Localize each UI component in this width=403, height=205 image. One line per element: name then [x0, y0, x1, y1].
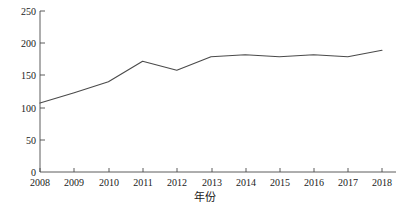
- y-tick-200: 200: [21, 38, 45, 49]
- x-tick-2016: 2016: [304, 168, 324, 188]
- y-tick-label: 200: [21, 38, 36, 49]
- y-tick-250: 250: [21, 6, 45, 17]
- y-tick-100: 100: [21, 103, 45, 114]
- y-tick-label: 150: [21, 70, 36, 81]
- x-tick-2017: 2017: [338, 168, 358, 188]
- x-tick-label: 2018: [372, 177, 392, 188]
- x-tick-2018: 2018: [372, 168, 392, 188]
- y-tick-label: 50: [26, 135, 36, 146]
- y-tick-150: 150: [21, 70, 45, 81]
- data-line-series-0: [40, 50, 382, 103]
- x-tick-2010: 2010: [99, 168, 119, 188]
- plot-axes: [40, 11, 396, 172]
- x-tick-label: 2015: [270, 177, 290, 188]
- x-tick-label: 2016: [304, 177, 324, 188]
- y-tick-50: 50: [26, 135, 45, 146]
- x-tick-label: 2008: [30, 177, 50, 188]
- y-tick-label: 250: [21, 6, 36, 17]
- x-tick-2015: 2015: [270, 168, 290, 188]
- x-tick-label: 2013: [202, 177, 222, 188]
- y-axis-ticks: 250 200 150 100 50 0: [21, 6, 45, 178]
- x-tick-2014: 2014: [236, 168, 256, 188]
- y-tick-label: 100: [21, 103, 36, 114]
- x-tick-label: 2011: [133, 177, 153, 188]
- series-group: [40, 50, 382, 103]
- chart-page: 250 200 150 100 50 0: [0, 0, 403, 205]
- x-tick-2013: 2013: [202, 168, 222, 188]
- x-tick-2011: 2011: [133, 168, 153, 188]
- x-tick-label: 2014: [236, 177, 256, 188]
- x-tick-label: 2009: [64, 177, 84, 188]
- x-tick-2009: 2009: [64, 168, 84, 188]
- x-tick-label: 2010: [99, 177, 119, 188]
- x-axis-title: 年份: [194, 190, 216, 203]
- line-chart: 250 200 150 100 50 0: [0, 0, 403, 205]
- x-tick-label: 2017: [338, 177, 358, 188]
- x-axis-ticks: 2008 2009 2010 2011 2012 2013: [30, 168, 392, 188]
- x-tick-2012: 2012: [167, 168, 187, 188]
- x-tick-label: 2012: [167, 177, 187, 188]
